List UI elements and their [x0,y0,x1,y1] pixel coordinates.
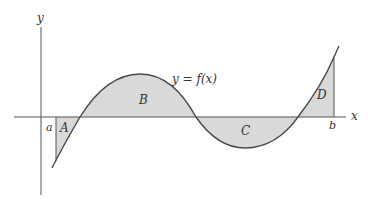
region-d-label: D [316,88,327,102]
y-axis-label: y [36,11,44,25]
region-b-label: B [138,93,148,107]
curve-label: y = f(x) [171,72,217,86]
bound-a-label: a [46,121,53,134]
region-d-fill [298,57,334,117]
bound-b-label: b [329,119,336,132]
region-c-label: C [241,124,250,138]
region-a-label: A [59,121,69,135]
x-axis-label: x [351,109,358,123]
area-diagram: y x a b A B C D y = f(x) [0,0,372,199]
